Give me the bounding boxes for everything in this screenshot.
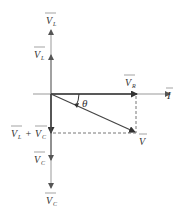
label-vc: V C	[34, 152, 46, 166]
label-vl-plus-vc: V L + V C	[11, 126, 47, 140]
label-vc-bottom: V C	[45, 193, 58, 207]
svg-text:C: C	[41, 160, 46, 166]
label-vl: V L	[34, 47, 45, 61]
svg-text:L: L	[52, 21, 57, 27]
svg-text:V: V	[139, 136, 147, 147]
label-i: I	[166, 88, 173, 101]
svg-text:L: L	[17, 134, 22, 140]
phasor-diagram: V L V L V R I θ V V L + V C V C V C	[0, 0, 182, 210]
label-vl-top: V L	[45, 13, 57, 27]
svg-text:C: C	[42, 134, 47, 140]
label-v: V	[139, 134, 147, 147]
label-vr: V R	[124, 75, 136, 89]
svg-text:R: R	[131, 83, 136, 89]
svg-text:I: I	[166, 89, 172, 101]
svg-text:+: +	[25, 128, 32, 139]
label-theta: θ	[82, 97, 88, 109]
svg-text:C: C	[53, 201, 58, 207]
v-resultant-vector	[51, 94, 135, 132]
svg-text:L: L	[40, 55, 45, 61]
